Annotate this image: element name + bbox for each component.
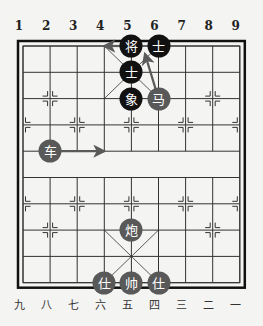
position-marker [43,101,48,106]
file-label-top: 5 [123,19,131,33]
position-marker [205,233,210,238]
black-piece[interactable]: 士 [147,35,170,58]
position-marker [188,196,193,201]
file-label-bottom: 六 [95,296,106,312]
red-piece[interactable]: 马 [147,87,170,110]
position-marker [70,196,75,201]
file-label-top: 8 [205,19,213,33]
position-marker [188,117,193,122]
file-label-bottom: 五 [122,296,133,312]
file-label-top: 4 [96,19,104,33]
position-marker [53,91,58,96]
position-marker [80,206,85,211]
position-marker [215,233,220,238]
position-marker [26,196,31,201]
position-marker [53,223,58,228]
position-marker [134,206,139,211]
position-marker [70,206,75,211]
position-marker [43,91,48,96]
file-label-bottom: 八 [41,296,52,312]
position-marker [134,127,139,132]
position-marker [124,117,129,122]
position-marker [205,101,210,106]
position-marker [124,127,129,132]
file-label-top: 1 [15,19,23,33]
file-label-top: 2 [42,19,50,33]
position-marker [232,206,237,211]
position-marker [70,117,75,122]
position-marker [80,127,85,132]
file-label-bottom: 三 [176,296,187,312]
position-marker [232,117,237,122]
position-marker [232,196,237,201]
position-marker [134,117,139,122]
black-piece[interactable]: 将 [120,35,143,58]
black-piece[interactable]: 象 [120,87,143,110]
position-marker [70,127,75,132]
position-marker [134,196,139,201]
position-marker [43,223,48,228]
position-marker [26,206,31,211]
black-piece[interactable]: 士 [120,61,143,84]
file-label-bottom: 一 [230,296,241,312]
file-label-top: 3 [69,19,77,33]
position-marker [178,196,183,201]
file-label-bottom: 九 [14,296,25,312]
position-marker [26,127,31,132]
position-marker [53,233,58,238]
red-piece[interactable]: 车 [39,140,62,163]
position-marker [188,206,193,211]
red-piece[interactable]: 仕 [147,271,170,294]
position-marker [124,206,129,211]
position-marker [232,127,237,132]
position-marker [215,101,220,106]
position-marker [205,91,210,96]
position-marker [26,117,31,122]
position-marker [80,117,85,122]
position-marker [215,223,220,228]
file-label-bottom: 七 [68,296,79,312]
position-marker [124,196,129,201]
red-piece[interactable]: 仕 [93,271,116,294]
red-piece[interactable]: 帅 [120,271,143,294]
file-label-top: 9 [232,19,240,33]
position-marker [215,91,220,96]
file-label-bottom: 四 [149,296,160,312]
position-marker [205,223,210,228]
file-label-top: 7 [177,19,185,33]
position-marker [178,206,183,211]
red-piece[interactable]: 炮 [120,219,143,242]
position-marker [43,233,48,238]
position-marker [178,117,183,122]
file-label-bottom: 二 [203,296,214,312]
position-marker [188,127,193,132]
position-marker [53,101,58,106]
file-label-top: 6 [150,19,158,33]
position-marker [178,127,183,132]
position-marker [80,196,85,201]
